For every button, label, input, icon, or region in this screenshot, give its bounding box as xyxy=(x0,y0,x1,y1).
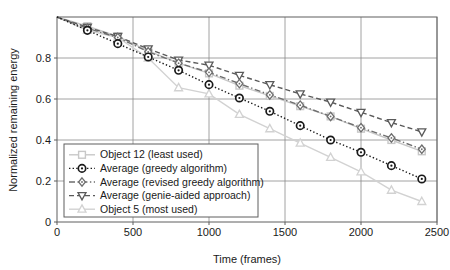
legend-label: Average (greedy algorithm) xyxy=(100,162,227,174)
data-point-center xyxy=(147,56,149,58)
x-tick-label: 500 xyxy=(124,226,142,238)
data-point-center xyxy=(269,94,271,96)
legend-marker-center xyxy=(81,181,83,183)
chart-figure: 0500100015002000250000.20.40.60.8 Time (… xyxy=(0,0,450,270)
data-point-center xyxy=(239,83,241,85)
y-tick-label: 0.4 xyxy=(36,134,51,146)
data-point-center xyxy=(208,71,210,73)
x-tick-label: 0 xyxy=(54,226,60,238)
legend-label: Average (genie-aided approach) xyxy=(100,189,250,201)
y-tick-label: 0.2 xyxy=(36,175,51,187)
x-tick-label: 2000 xyxy=(349,226,373,238)
data-point-center xyxy=(178,69,180,71)
y-tick-label: 0.8 xyxy=(36,52,51,64)
x-tick-label: 1500 xyxy=(273,226,297,238)
chart-legend[interactable]: Object 12 (least used)Average (greedy al… xyxy=(64,144,264,217)
legend-marker-center xyxy=(81,167,83,169)
data-point-center xyxy=(238,97,240,99)
line-chart: 0500100015002000250000.20.40.60.8 Time (… xyxy=(0,0,450,270)
data-point-center xyxy=(391,137,393,139)
y-tick-label: 0.6 xyxy=(36,93,51,105)
x-axis-title: Time (frames) xyxy=(213,253,281,265)
data-point-center xyxy=(117,43,119,45)
data-point-center xyxy=(117,37,119,39)
legend-label: Object 12 (least used) xyxy=(100,148,203,160)
data-point-center xyxy=(86,29,88,31)
data-point-center xyxy=(421,148,423,150)
chart-background xyxy=(0,0,450,270)
data-point-center xyxy=(330,139,332,141)
data-point-center xyxy=(390,165,392,167)
data-point-center xyxy=(208,84,210,86)
data-point-center xyxy=(360,127,362,129)
data-point-center xyxy=(299,104,301,106)
legend-label: Object 5 (most used) xyxy=(100,203,197,215)
x-tick-label: 2500 xyxy=(425,226,449,238)
x-tick-label: 1000 xyxy=(197,226,221,238)
data-point-center xyxy=(269,110,271,112)
y-tick-label: 0 xyxy=(45,216,51,228)
legend-label: Average (revised greedy algorithm) xyxy=(100,176,264,188)
y-axis-title: Normalized remaining energy xyxy=(7,48,19,192)
data-point-center xyxy=(178,62,180,64)
data-point-center xyxy=(299,125,301,127)
data-point-center xyxy=(421,178,423,180)
data-point-center xyxy=(360,151,362,153)
legend-marker xyxy=(79,151,86,158)
data-point-center xyxy=(330,116,332,118)
